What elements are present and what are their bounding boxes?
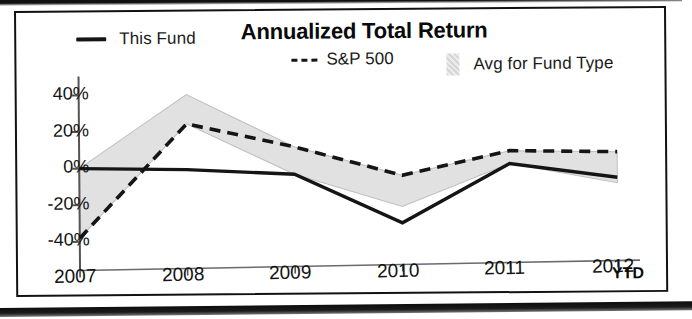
scan-artifact-bottom-bar — [0, 301, 692, 317]
scan-artifact-top-bar — [0, 0, 682, 6]
x-tick-label: 2010 — [377, 259, 420, 282]
chart-figure-frame: Annualized Total Return This Fund S&P 50… — [14, 6, 668, 297]
x-tick-label: 2008 — [161, 263, 204, 286]
x-axis-ytd-label: YTD — [612, 264, 644, 282]
x-axis-ticks: 200720082009201020112012 — [16, 8, 670, 299]
x-tick-label: 2007 — [54, 265, 97, 288]
chart-figure-inner: Annualized Total Return This Fund S&P 50… — [16, 8, 666, 295]
x-tick-label: 2009 — [269, 261, 312, 284]
plot-area: 40%20%0%-20%-40% 20072008200920102011201… — [16, 8, 670, 299]
x-tick-label: 2011 — [484, 257, 525, 280]
